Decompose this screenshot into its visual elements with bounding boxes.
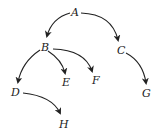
edge-a-b xyxy=(47,13,70,36)
node-e: E xyxy=(61,76,70,89)
edge-b-d xyxy=(18,50,40,82)
edge-c-g xyxy=(126,53,146,83)
edge-d-h xyxy=(23,93,60,113)
tree-diagram: A B C D E F G H xyxy=(0,0,159,135)
edge-b-e xyxy=(48,51,65,73)
node-c: C xyxy=(117,44,126,57)
node-b: B xyxy=(40,41,49,54)
node-h: H xyxy=(58,118,69,131)
node-f: F xyxy=(91,74,100,87)
node-a: A xyxy=(70,6,79,19)
node-g: G xyxy=(142,87,151,100)
edge-a-c xyxy=(81,13,118,40)
node-d: D xyxy=(10,86,20,99)
